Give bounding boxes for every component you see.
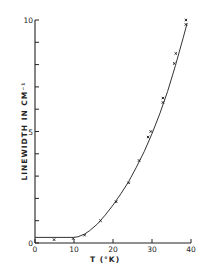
x-tick-label: 40 [186, 245, 196, 254]
linewidth-vs-temperature-chart: 010203040 0510 T (°K) LINEWIDTH IN CM⁻¹ [0, 0, 205, 273]
y-tick-label: 0 [28, 239, 33, 248]
x-tick-label: 0 [33, 245, 38, 254]
data-point-marker [150, 130, 152, 132]
y-tick-label: 10 [23, 16, 33, 25]
data-point-marker [185, 19, 187, 21]
data-point-marker [173, 62, 175, 64]
data-points [53, 19, 187, 241]
axes [35, 20, 191, 243]
x-tick-label: 20 [108, 245, 118, 254]
data-point-marker [162, 97, 164, 99]
x-axis-label: T (°K) [90, 255, 120, 264]
x-tick-label: 10 [69, 245, 79, 254]
x-tick-label: 30 [147, 245, 157, 254]
data-point-marker [175, 52, 177, 54]
data-point-marker [147, 136, 149, 138]
x-ticks: 010203040 [33, 239, 196, 254]
y-axis-label: LINEWIDTH IN CM⁻¹ [20, 81, 29, 180]
data-point-marker [53, 238, 55, 240]
fit-curve [35, 23, 187, 237]
